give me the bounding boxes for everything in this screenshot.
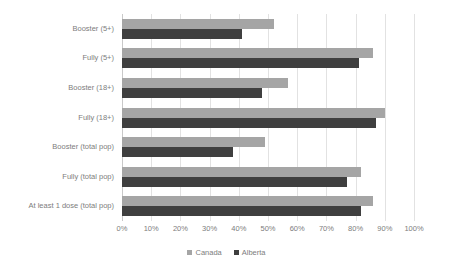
- category-label: Booster (total pop): [0, 142, 114, 151]
- bar-group: [122, 78, 414, 98]
- bar-alberta: [122, 29, 242, 39]
- chart-legend: CanadaAlberta: [0, 248, 453, 257]
- legend-label: Canada: [195, 248, 221, 257]
- bar-alberta: [122, 147, 233, 157]
- vaccination-coverage-bar-chart: Booster (5+)Fully (5+)Booster (18+)Fully…: [0, 0, 453, 272]
- x-tick-label: 10%: [144, 224, 159, 233]
- bar-group: [122, 48, 414, 68]
- x-tick-label: 30%: [202, 224, 217, 233]
- gridline-100%: [414, 14, 415, 221]
- bar-canada: [122, 19, 274, 29]
- x-tick-label: 90%: [377, 224, 392, 233]
- x-tick-label: 80%: [348, 224, 363, 233]
- bar-group: [122, 108, 414, 128]
- category-label: Fully (5+): [0, 53, 114, 62]
- x-tick-label: 60%: [290, 224, 305, 233]
- x-tick-label: 0%: [117, 224, 128, 233]
- category-axis-labels: Booster (5+)Fully (5+)Booster (18+)Fully…: [0, 14, 118, 221]
- legend-item-alberta[interactable]: Alberta: [234, 248, 266, 257]
- legend-swatch-icon: [187, 250, 192, 255]
- x-tick-label: 50%: [260, 224, 275, 233]
- category-label: Fully (total pop): [0, 172, 114, 181]
- bar-alberta: [122, 177, 347, 187]
- category-label: At least 1 dose (total pop): [0, 201, 114, 210]
- x-tick-label: 20%: [173, 224, 188, 233]
- legend-label: Alberta: [242, 248, 266, 257]
- x-tick-label: 40%: [231, 224, 246, 233]
- category-label: Booster (5+): [0, 24, 114, 33]
- legend-item-canada[interactable]: Canada: [187, 248, 221, 257]
- bar-canada: [122, 137, 265, 147]
- x-tick-label: 70%: [319, 224, 334, 233]
- bar-group: [122, 196, 414, 216]
- bar-canada: [122, 196, 373, 206]
- bar-group: [122, 137, 414, 157]
- bar-alberta: [122, 58, 359, 68]
- x-axis: 0%10%20%30%40%50%60%70%80%90%100%: [122, 221, 414, 235]
- bar-alberta: [122, 206, 361, 216]
- category-label: Booster (18+): [0, 83, 114, 92]
- bar-canada: [122, 108, 385, 118]
- x-tick-label: 100%: [404, 224, 423, 233]
- category-label: Fully (18+): [0, 113, 114, 122]
- plot-area: [122, 14, 414, 221]
- bar-group: [122, 19, 414, 39]
- legend-swatch-icon: [234, 250, 239, 255]
- bar-rows: [122, 14, 414, 221]
- bar-canada: [122, 78, 288, 88]
- bar-alberta: [122, 118, 376, 128]
- bar-group: [122, 167, 414, 187]
- bar-canada: [122, 167, 361, 177]
- bar-alberta: [122, 88, 262, 98]
- bar-canada: [122, 48, 373, 58]
